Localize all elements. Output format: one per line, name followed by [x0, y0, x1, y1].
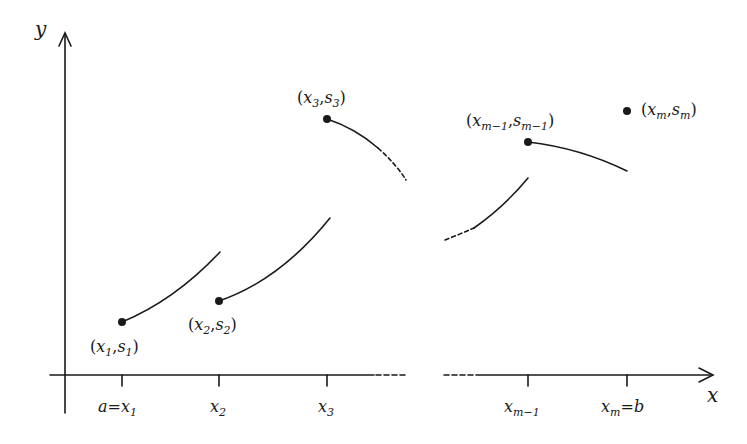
point-xm1-sm1	[524, 138, 532, 146]
label-x3-s3: (x3,s3)	[297, 88, 346, 110]
curve-segment-3	[327, 119, 378, 148]
point-x1-s1	[118, 318, 126, 326]
label-xm-sm: (xm,sm)	[641, 100, 697, 122]
curve-segment-m2-dashed	[445, 228, 474, 240]
curve-segment-m2	[474, 178, 528, 228]
tick-label-xm: xm=b	[601, 397, 644, 419]
y-axis	[59, 33, 71, 413]
curve-segment-1	[122, 252, 220, 322]
x-axis	[50, 368, 713, 382]
curve-segment-m1	[528, 142, 627, 171]
piecewise-function-diagram: y x a=x1 x2 x3 xm−1 xm=b (x1,s1) (x2,s2)…	[0, 0, 747, 444]
tick-label-xm1: xm−1	[504, 397, 540, 419]
point-x3-s3	[323, 115, 331, 123]
label-x1-s1: (x1,s1)	[90, 337, 139, 359]
tick-label-x1: a=x1	[98, 397, 137, 419]
point-x2-s2	[215, 297, 223, 305]
y-axis-label: y	[34, 17, 47, 41]
x-axis-ticks	[122, 375, 627, 386]
tick-label-x3: x3	[318, 397, 334, 419]
tick-label-x2: x2	[210, 397, 226, 419]
curve-segment-3-dashed	[378, 148, 406, 180]
label-xm1-sm1: (xm−1,sm−1)	[466, 111, 554, 133]
x-axis-label: x	[707, 383, 718, 407]
point-xm-sm	[623, 107, 631, 115]
curve-segment-2	[219, 218, 330, 301]
label-x2-s2: (x2,s2)	[188, 315, 237, 337]
